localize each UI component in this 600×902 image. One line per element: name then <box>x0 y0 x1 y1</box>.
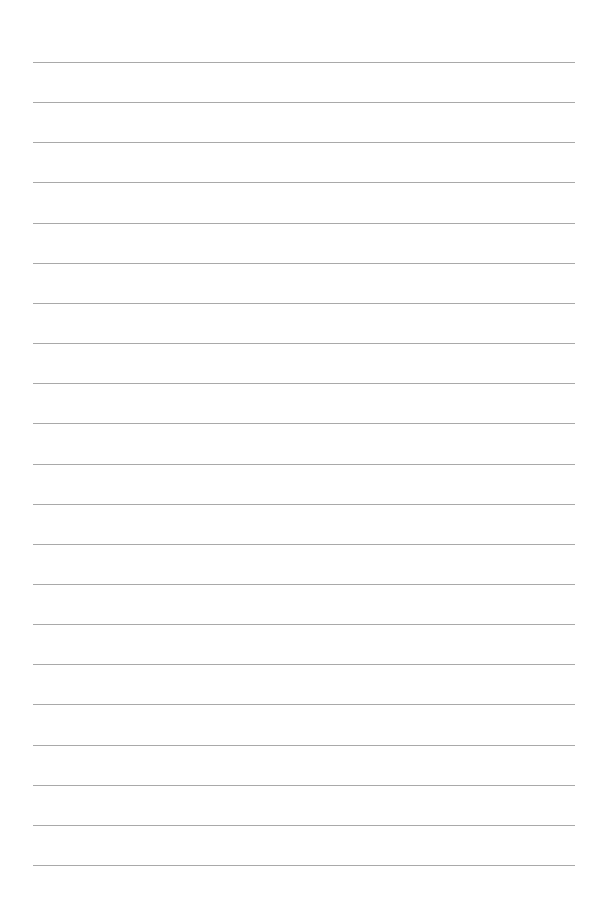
ruled-line <box>33 223 575 224</box>
ruled-line <box>33 383 575 384</box>
ruled-line <box>33 182 575 183</box>
ruled-line <box>33 584 575 585</box>
ruled-line <box>33 263 575 264</box>
ruled-line <box>33 865 575 866</box>
ruled-line <box>33 745 575 746</box>
ruled-line <box>33 303 575 304</box>
ruled-line <box>33 142 575 143</box>
ruled-line <box>33 664 575 665</box>
ruled-line <box>33 624 575 625</box>
ruled-line <box>33 343 575 344</box>
lined-paper-page <box>0 0 600 902</box>
ruled-line <box>33 785 575 786</box>
ruled-line <box>33 504 575 505</box>
ruled-line <box>33 423 575 424</box>
ruled-line <box>33 62 575 63</box>
ruled-line <box>33 704 575 705</box>
ruled-line <box>33 102 575 103</box>
ruled-line <box>33 825 575 826</box>
ruled-line <box>33 544 575 545</box>
ruled-line <box>33 464 575 465</box>
